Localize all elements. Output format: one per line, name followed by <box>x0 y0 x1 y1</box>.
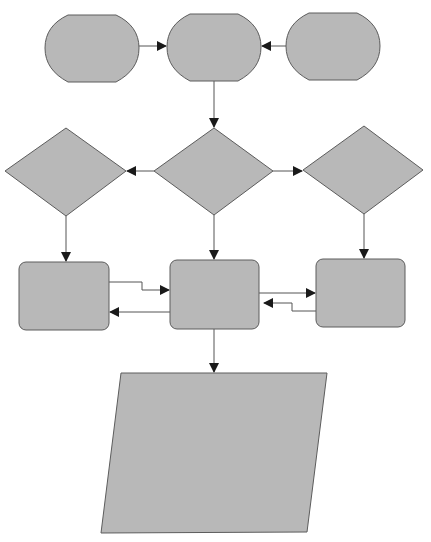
node-data-output[interactable] <box>101 373 327 533</box>
edge-process-right-to-process-center <box>264 303 316 311</box>
node-process-left[interactable] <box>19 262 109 330</box>
node-decision-right[interactable] <box>303 126 423 214</box>
process-shape <box>170 260 259 329</box>
node-process-right[interactable] <box>316 259 405 327</box>
parallelogram-shape <box>101 373 327 533</box>
flowchart-canvas <box>0 0 431 542</box>
node-start-right[interactable] <box>286 13 380 80</box>
terminator-shape <box>45 15 139 82</box>
node-start-center[interactable] <box>167 14 261 81</box>
edge-process-left-to-process-center <box>109 282 169 290</box>
process-shape <box>19 262 109 330</box>
node-start-left[interactable] <box>45 15 139 82</box>
node-decision-center[interactable] <box>154 128 273 215</box>
node-process-center[interactable] <box>170 260 259 329</box>
terminator-shape <box>286 13 380 80</box>
terminator-shape <box>167 14 261 81</box>
diamond-shape <box>303 126 423 214</box>
diamond-shape <box>154 128 273 215</box>
process-shape <box>316 259 405 327</box>
node-decision-left[interactable] <box>5 128 126 216</box>
diamond-shape <box>5 128 126 216</box>
